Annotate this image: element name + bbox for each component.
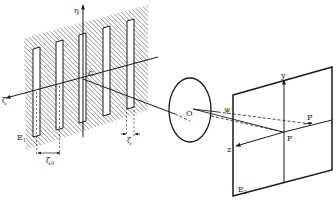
ray-to-p-dashed (218, 112, 311, 124)
z-axis (236, 132, 284, 146)
optical-diagram: η ζ C E 1 ζ 0 ζ O y z F (0, 0, 336, 204)
point-p-label: P (307, 113, 313, 122)
y-axis-label: y (280, 71, 286, 80)
origin-c-label: C (88, 69, 94, 78)
screen-plane-e2: y z F P ψ E 2 (224, 67, 332, 196)
slit-2 (56, 40, 63, 130)
plane-e1-label-sub: 1 (23, 137, 26, 143)
z-axis-label: z (227, 145, 231, 154)
angle-psi-label: ψ (224, 105, 230, 114)
plane-e2-label-sub: 2 (244, 189, 247, 195)
zeta-axis-label: ζ (2, 96, 7, 105)
lens-o-label: O (186, 109, 193, 118)
width-dimension-label: ζ (127, 136, 132, 145)
focus-f-label: F (287, 134, 293, 143)
period-dimension-label-sub: 0 (51, 160, 54, 166)
ray-to-p-solid (193, 109, 218, 112)
grating-plane-e1: η ζ C E 1 ζ 0 ζ (2, 5, 190, 166)
eta-axis-label: η (74, 6, 79, 15)
ray-to-f-dashed (211, 116, 283, 132)
